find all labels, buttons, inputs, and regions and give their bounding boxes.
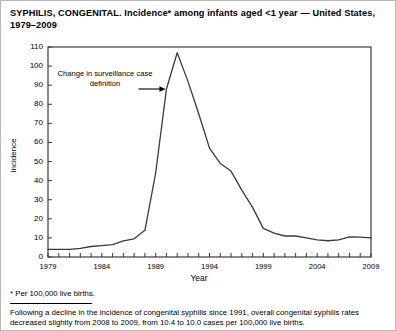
caption-text: Following a decline in the incidence of … [10, 308, 388, 327]
chart-plot [1, 1, 396, 331]
y-tick-label: 100 [21, 61, 43, 70]
y-tick-label: 10 [21, 233, 43, 242]
x-tick-label: 1984 [85, 262, 119, 271]
annotation-arrow [138, 86, 165, 92]
y-tick-label: 40 [21, 176, 43, 185]
x-tick-label: 2009 [354, 262, 388, 271]
y-tick-label: 0 [21, 252, 43, 261]
y-tick-label: 20 [21, 214, 43, 223]
x-tick-label: 1999 [246, 262, 280, 271]
x-tick-label: 1979 [31, 262, 65, 271]
x-tick-label: 1989 [139, 262, 173, 271]
y-tick-label: 90 [21, 80, 43, 89]
data-series-line [48, 53, 371, 250]
caption-divider [10, 303, 92, 304]
x-axis-ticks [48, 253, 371, 257]
footnote-text: * Per 100,000 live births. [10, 289, 95, 298]
x-tick-label: 2004 [300, 262, 334, 271]
axis-frame [48, 47, 371, 257]
y-tick-label: 30 [21, 195, 43, 204]
x-tick-label: 1994 [193, 262, 227, 271]
y-tick-label: 50 [21, 157, 43, 166]
y-tick-label: 80 [21, 99, 43, 108]
figure-container: SYPHILIS, CONGENITAL. Incidence* among i… [0, 0, 396, 331]
y-tick-label: 60 [21, 137, 43, 146]
y-tick-label: 70 [21, 118, 43, 127]
y-tick-label: 110 [21, 42, 43, 51]
